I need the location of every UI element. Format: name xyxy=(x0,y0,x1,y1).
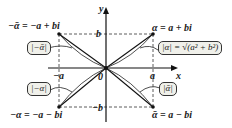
modulus-braces xyxy=(48,34,160,107)
y-axis-arrow-icon xyxy=(103,7,109,14)
tick-b: b xyxy=(96,29,101,39)
modulus-alpha-box: |α| = √(a² + b²) xyxy=(158,41,222,55)
point-neg-alpha-bar-label: −ᾱ = −a + bi xyxy=(8,21,60,31)
tick-a: a xyxy=(150,71,155,81)
point-neg-alpha-label: −α = −a − bi xyxy=(10,110,62,120)
origin-label: 0 xyxy=(98,72,103,82)
modulus-neg-alpha-bar-box: |−ᾱ| xyxy=(27,41,51,55)
x-axis-label: x xyxy=(176,71,181,81)
tick-neg-a: −a xyxy=(53,71,64,81)
tick-neg-b: −b xyxy=(92,103,103,113)
y-axis-label: y xyxy=(99,4,103,14)
modulus-neg-alpha-box: |−α| xyxy=(27,82,51,96)
point-alpha-bar-label: ᾱ = a − bi xyxy=(152,110,192,120)
point-alpha-label: α = a + bi xyxy=(152,23,192,33)
modulus-alpha-bar-box: |ᾱ| xyxy=(159,82,177,96)
